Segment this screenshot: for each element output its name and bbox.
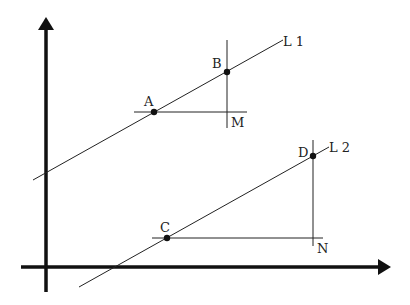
line-l1 [33,40,283,180]
line-l1-group: L 1 A B M [33,34,304,180]
point-a [151,109,157,115]
point-c [164,235,170,241]
label-b: B [212,56,222,71]
point-b [224,69,230,75]
diagram-canvas: L 1 A B M L 2 C D N [0,0,410,305]
line-l2-group: L 2 C D N [79,140,350,287]
label-l2: L 2 [329,140,350,155]
label-m: M [231,115,244,130]
point-d [310,153,316,159]
x-axis-arrow-icon [378,259,391,275]
label-a: A [143,94,154,109]
label-n: N [317,241,328,256]
label-c: C [160,220,170,235]
x-axis [21,259,391,275]
y-axis [38,17,54,292]
label-d: D [298,145,308,160]
label-l1: L 1 [283,34,304,49]
y-axis-arrow-icon [38,17,54,30]
